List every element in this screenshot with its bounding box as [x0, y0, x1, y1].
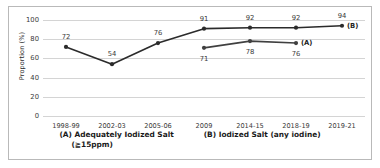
legend-entry-b: (B) Iodized Salt (any iodine): [204, 130, 321, 140]
data-point-marker: [202, 27, 206, 31]
data-point-label: 72: [62, 33, 71, 41]
data-point-marker: [156, 41, 160, 45]
series-end-label: (B): [347, 22, 358, 30]
plot-area: 020406080100 1998-992002-032005-06200920…: [43, 20, 365, 116]
data-point-label: 76: [292, 50, 301, 58]
y-axis-tick-label: 100: [26, 16, 39, 24]
gridline: [43, 116, 365, 117]
y-axis-tick-label: 40: [30, 74, 39, 82]
data-point-label: 54: [108, 50, 117, 58]
legend-entry-a-line2: (≧15ppm): [59, 140, 173, 150]
data-point-marker: [248, 26, 252, 30]
data-point-marker: [294, 26, 298, 30]
data-point-label: 78: [246, 48, 255, 56]
y-axis-tick-label: 60: [30, 54, 39, 62]
series-lines: [43, 20, 365, 116]
legend-entry-a: (A) Adequately Iodized Salt (≧15ppm): [59, 130, 173, 150]
data-point-marker: [110, 62, 114, 66]
data-point-label: 71: [200, 55, 209, 63]
figure-container: Proportion (%) 020406080100 1998-992002-…: [0, 0, 380, 168]
data-point-marker: [340, 24, 344, 28]
legend-entry-a-line1: (A) Adequately Iodized Salt: [59, 130, 173, 139]
legend-entry-b-line1: (B) Iodized Salt (any iodine): [204, 130, 321, 139]
series-end-label: (A): [301, 39, 312, 47]
data-point-marker: [248, 39, 252, 43]
legend: (A) Adequately Iodized Salt (≧15ppm) (B)…: [8, 128, 372, 158]
data-point-marker: [64, 45, 68, 49]
data-point-label: 92: [246, 14, 255, 22]
data-point-label: 92: [292, 14, 301, 22]
data-point-marker: [202, 46, 206, 50]
data-point-label: 94: [338, 12, 347, 20]
data-point-label: 91: [200, 15, 209, 23]
y-axis-tick-label: 20: [30, 93, 39, 101]
y-axis-tick-label: 80: [30, 35, 39, 43]
data-point-marker: [294, 41, 298, 45]
y-axis-tick-label: 0: [35, 112, 39, 120]
y-axis-title: Proportion (%): [18, 18, 26, 94]
data-point-label: 76: [154, 29, 163, 37]
